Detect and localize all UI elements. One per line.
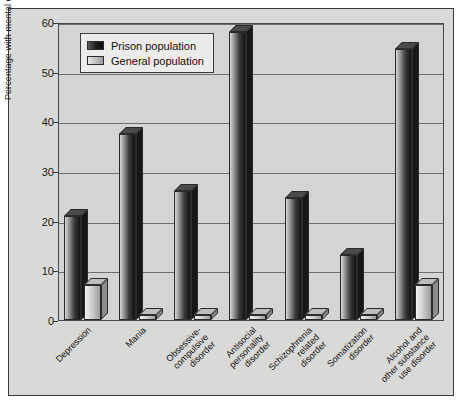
bar-face [229, 32, 246, 320]
bar-general [139, 315, 156, 320]
bar-face [249, 315, 266, 320]
legend-swatch-prison [87, 41, 104, 50]
bar-prison [285, 198, 302, 320]
y-tick-label: 50 [9, 67, 54, 79]
y-tick-label: 20 [9, 216, 54, 228]
legend-swatch-general [87, 56, 104, 65]
bar-side [302, 191, 309, 320]
bar-face [395, 49, 412, 320]
y-tick-label: 30 [9, 166, 54, 178]
bar-prison [119, 134, 136, 320]
chart-legend: Prison population General population [80, 33, 214, 73]
bar-prison [395, 49, 412, 320]
bar-face [84, 285, 101, 320]
bar-face [285, 198, 302, 320]
legend-item: Prison population [87, 38, 204, 53]
y-tick-label: 40 [9, 116, 54, 128]
bar-side [357, 248, 364, 320]
bar-general [415, 285, 432, 320]
plot-area: Prison population General population [58, 23, 444, 321]
bar-general [249, 315, 266, 320]
bar-general [305, 315, 322, 320]
bar-side [412, 42, 419, 320]
y-tick-label: 0 [9, 315, 54, 327]
bar-face [174, 191, 191, 320]
bar-prison [174, 191, 191, 320]
bar-face [64, 216, 81, 320]
y-tick-label: 10 [9, 265, 54, 277]
bar-face [415, 285, 432, 320]
bar-face [119, 134, 136, 320]
bar-side [246, 25, 253, 320]
bar-face [340, 255, 357, 320]
bar-prison [64, 216, 81, 320]
legend-label-general: General population [111, 55, 204, 67]
bar-face [360, 315, 377, 320]
bar-side [101, 278, 108, 320]
bar-face [139, 315, 156, 320]
bar-side [136, 127, 143, 320]
legend-label-prison: Prison population [111, 40, 196, 52]
bar-prison [340, 255, 357, 320]
y-tick-mark [53, 321, 58, 322]
bar-general [194, 315, 211, 320]
bar-general [360, 315, 377, 320]
bar-side [432, 278, 439, 320]
bar-face [305, 315, 322, 320]
legend-item: General population [87, 53, 204, 68]
bar-face [194, 315, 211, 320]
bar-prison [229, 32, 246, 320]
y-tick-label: 60 [9, 17, 54, 29]
chart-figure: Percentage with mental disorder 01020304… [8, 8, 454, 396]
bar-general [84, 285, 101, 320]
bar-side [191, 184, 198, 320]
